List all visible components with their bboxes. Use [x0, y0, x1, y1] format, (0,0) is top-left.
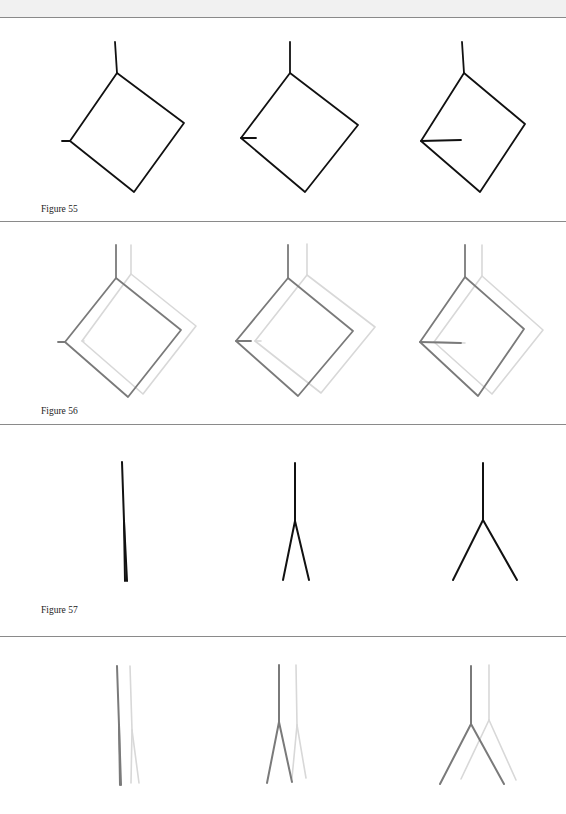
stem-line [117, 666, 119, 725]
leg-line [131, 730, 132, 783]
square-shape [434, 276, 543, 394]
caption-figure-56: Figure 56 [41, 407, 78, 417]
tick-line [421, 140, 461, 141]
stem-line [122, 462, 124, 521]
leg-line [283, 521, 295, 580]
stem-line [462, 42, 464, 73]
leg-line [440, 724, 471, 784]
divider-figure-57 [0, 636, 566, 637]
figures-canvas [0, 0, 566, 814]
tick-line [420, 342, 461, 343]
divider-figure-56 [0, 424, 566, 425]
stem-line [115, 42, 117, 73]
divider-figure-55 [0, 221, 566, 222]
leg-line [279, 722, 292, 782]
leg-line [471, 724, 504, 784]
leg-line [267, 722, 279, 783]
leg-line [297, 725, 306, 778]
leg-line [453, 520, 483, 580]
leg-line [295, 521, 309, 580]
leg-line [483, 520, 517, 580]
square-shape [420, 277, 524, 396]
square-shape [65, 278, 181, 397]
square-shape [421, 73, 525, 192]
leg-line [489, 720, 516, 780]
stem-line [130, 666, 132, 730]
leg-line [292, 725, 297, 778]
caption-figure-55: Figure 55 [41, 205, 78, 215]
leg-line [132, 730, 139, 783]
square-shape [241, 73, 358, 192]
caption-figure-57: Figure 57 [41, 606, 78, 616]
square-shape [236, 278, 353, 396]
square-shape [70, 73, 184, 192]
stem-line [296, 665, 297, 725]
